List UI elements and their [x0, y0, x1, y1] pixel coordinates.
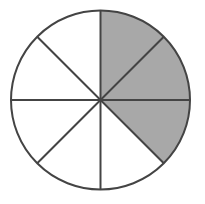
figure-root: [0, 0, 205, 204]
fraction-circle-diagram: [0, 0, 205, 204]
